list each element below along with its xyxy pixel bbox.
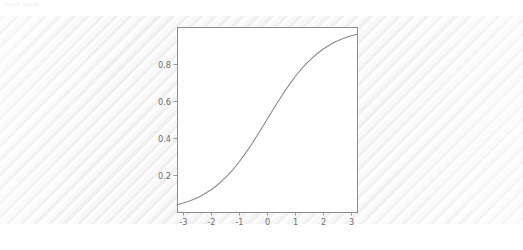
y-tick-label: 0.4 <box>158 134 171 144</box>
header-text: lorem ipsum <box>4 1 40 7</box>
x-axis-tick-labels: -3-2-10123 <box>179 217 354 227</box>
x-tick-label: 0 <box>265 217 270 227</box>
x-tick-label: -2 <box>207 217 215 227</box>
y-tick-label: 0.2 <box>158 171 171 181</box>
sigmoid-line-chart: 0.20.40.60.8 -3-2-10123 <box>140 22 375 228</box>
x-tick-label: 1 <box>293 217 298 227</box>
x-tick-label: -3 <box>179 217 187 227</box>
y-axis-tick-labels: 0.20.40.60.8 <box>158 60 171 181</box>
x-tick-label: 2 <box>321 217 326 227</box>
plot-frame <box>178 28 358 213</box>
x-tick-label: -1 <box>235 217 243 227</box>
y-tick-label: 0.6 <box>158 97 171 107</box>
chart-container: 0.20.40.60.8 -3-2-10123 <box>140 22 375 228</box>
x-tick-label: 3 <box>349 217 354 227</box>
y-tick-label: 0.8 <box>158 60 171 70</box>
